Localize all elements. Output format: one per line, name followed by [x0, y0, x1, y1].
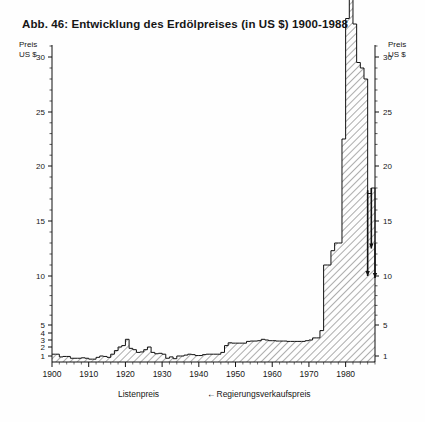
legend-regierungsverkaufspreis-label: Regierungsverkaufspreis	[217, 389, 311, 399]
y-tick-label-right-20: 20	[383, 162, 392, 171]
x-tick-label-1940: 1940	[189, 369, 208, 379]
plot-area: 1234510152025301510152025301900191019201…	[0, 0, 425, 422]
y-tick-label-left-4: 4	[41, 329, 46, 338]
x-tick-label-1970: 1970	[299, 369, 318, 379]
y-tick-label-right-30: 30	[383, 53, 392, 62]
x-tick-label-1930: 1930	[153, 369, 172, 379]
x-tick-label-1920: 1920	[116, 369, 135, 379]
y-tick-label-right-5: 5	[383, 321, 388, 330]
listenpreis-area	[52, 0, 375, 362]
y-tick-label-right-10: 10	[383, 272, 392, 281]
figure-container: Abb. 46: Entwicklung des Erdölpreises (i…	[0, 0, 425, 422]
oil-price-chart: 1234510152025301510152025301900191019201…	[0, 0, 425, 422]
y-tick-label-left-5: 5	[41, 321, 46, 330]
x-tick-label-1900: 1900	[43, 369, 62, 379]
y-tick-label-left-25: 25	[36, 108, 45, 117]
legend-listenpreis-label: Listenpreis	[118, 389, 159, 399]
x-tick-label-1980: 1980	[336, 369, 355, 379]
y-tick-label-left-1: 1	[41, 352, 46, 361]
legend-regierungsverkaufspreis: ←Regierungsverkaufspreis	[207, 389, 311, 399]
y-tick-label-left-10: 10	[36, 272, 45, 281]
y-tick-label-left-30: 30	[36, 53, 45, 62]
listenpreis-area-fill	[52, 0, 375, 362]
legend-arrow-icon: ←	[207, 389, 217, 399]
y-tick-label-left-20: 20	[36, 162, 45, 171]
legend-listenpreis: Listenpreis	[118, 389, 159, 399]
x-tick-label-1910: 1910	[79, 369, 98, 379]
x-tick-label-1960: 1960	[263, 369, 282, 379]
y-tick-label-right-15: 15	[383, 217, 392, 226]
y-tick-label-right-1: 1	[383, 352, 388, 361]
y-tick-label-left-15: 15	[36, 217, 45, 226]
x-tick-label-1950: 1950	[226, 369, 245, 379]
y-tick-label-right-25: 25	[383, 108, 392, 117]
